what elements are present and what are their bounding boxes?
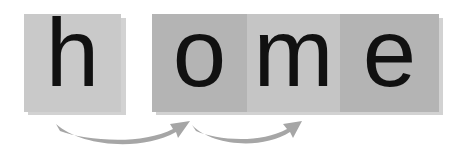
curved-arrow-icon	[56, 121, 190, 144]
curved-arrow-icon	[192, 121, 302, 143]
arrows-layer	[0, 0, 456, 153]
